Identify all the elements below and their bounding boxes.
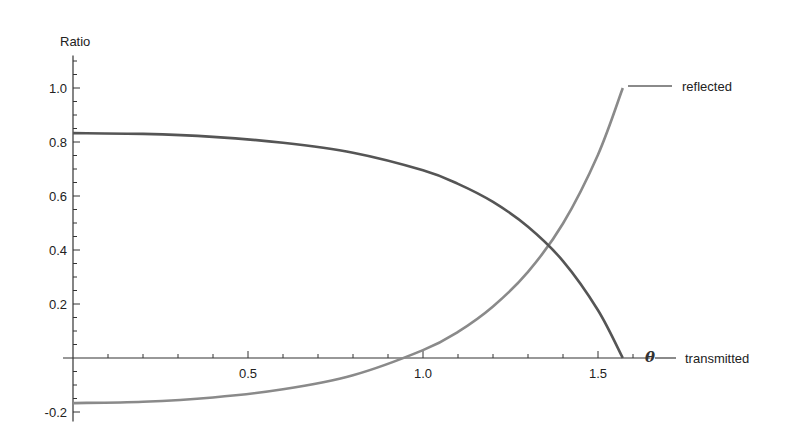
y-axis-title: Ratio	[60, 34, 90, 49]
series-group	[73, 88, 623, 403]
y-tick-label: -0.2	[45, 405, 67, 420]
x-axis-variable: θ	[645, 348, 655, 366]
legend-label-reflected: reflected	[682, 79, 732, 94]
x-tick-label: 0.5	[239, 366, 257, 381]
series-line-transmitted	[73, 133, 623, 358]
axes: -0.20.20.40.60.81.00.51.01.5	[45, 56, 651, 422]
x-tick-label: 1.5	[589, 366, 607, 381]
y-tick-label: 1.0	[49, 81, 67, 96]
y-tick-label: 0.8	[49, 135, 67, 150]
fresnel-ratio-chart: -0.20.20.40.60.81.00.51.01.5 Ratio θ ref…	[0, 0, 798, 436]
x-tick-label: 1.0	[414, 366, 432, 381]
legend-transmitted: transmitted	[655, 351, 749, 366]
legend-reflected: reflected	[628, 79, 732, 94]
y-tick-label: 0.4	[49, 243, 67, 258]
y-tick-label: 0.6	[49, 189, 67, 204]
y-tick-label: 0.2	[49, 297, 67, 312]
legend-label-transmitted: transmitted	[685, 351, 749, 366]
